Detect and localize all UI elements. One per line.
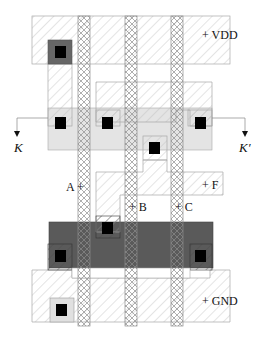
label-output-f: + F — [202, 178, 219, 192]
contact-p3 — [195, 117, 206, 129]
vdd-via — [48, 40, 72, 64]
contact-n3 — [195, 250, 206, 262]
contact-n1 — [55, 250, 66, 262]
poly-gate-b — [125, 16, 137, 326]
label-input-b: + B — [129, 200, 147, 214]
label-vdd: + VDD — [202, 28, 238, 42]
cut-line-right — [212, 118, 248, 137]
label-input-a: A + — [66, 180, 84, 194]
label-input-c: + C — [175, 200, 193, 214]
arrow-down-icon — [242, 131, 248, 137]
contact-p2 — [102, 117, 113, 129]
contact-p1 — [55, 117, 66, 129]
arrow-down-icon — [14, 131, 20, 137]
contact-out — [149, 142, 160, 154]
label-gnd: + GND — [202, 294, 238, 308]
poly-gate-a — [78, 16, 90, 326]
cut-line-left — [14, 118, 48, 137]
layout-diagram: + VDD + GND A + + B + C + F K K′ — [0, 0, 263, 341]
poly-gate-c — [171, 16, 183, 326]
label-cut-k-prime: K′ — [238, 140, 251, 155]
gnd-via — [50, 298, 74, 322]
contact-n2 — [102, 222, 113, 234]
metal-left-stub — [48, 64, 72, 126]
metal-upper-middle — [96, 82, 212, 126]
label-cut-k: K — [13, 140, 24, 155]
